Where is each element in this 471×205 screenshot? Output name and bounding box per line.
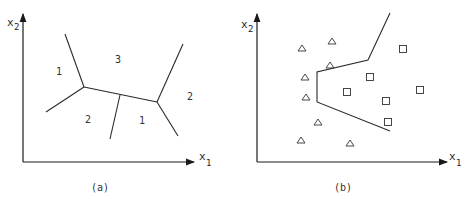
x-axis-label: x — [449, 150, 456, 163]
square-icon — [344, 89, 351, 96]
triangle-icon — [298, 45, 306, 51]
region-label: 2 — [187, 91, 193, 102]
x-axis-subscript: 1 — [456, 158, 461, 168]
triangle-points — [297, 38, 354, 146]
caption-b: (b) — [334, 182, 352, 193]
triangle-icon — [346, 140, 354, 146]
square-icon — [383, 98, 390, 105]
caption-a: (a) — [91, 182, 109, 193]
x-axis-subscript: 1 — [206, 158, 211, 168]
square-icon — [385, 119, 392, 126]
square-icon — [400, 46, 407, 53]
decision-boundary — [317, 13, 390, 131]
square-icon — [367, 74, 374, 81]
square-points — [344, 46, 424, 126]
triangle-icon — [314, 119, 322, 125]
region-label: 1 — [139, 115, 145, 126]
panel-b: x 2 x 1 (b) — [241, 13, 461, 193]
figure: x 2 x 1 1 3 2 2 1 (a) x 2 x 1 — [0, 0, 471, 205]
y-axis-label: x — [7, 16, 14, 29]
decision-boundaries — [46, 34, 183, 139]
region-label: 1 — [56, 66, 62, 77]
panel-a: x 2 x 1 1 3 2 2 1 (a) — [7, 14, 211, 193]
x-axis-label: x — [199, 150, 206, 163]
y-axis-subscript: 2 — [248, 24, 253, 34]
square-icon — [417, 87, 424, 94]
y-axis-label: x — [241, 18, 248, 31]
region-label: 3 — [115, 54, 121, 65]
triangle-icon — [328, 38, 336, 44]
triangle-icon — [301, 74, 309, 80]
y-axis-subscript: 2 — [14, 22, 19, 32]
region-label: 2 — [85, 114, 91, 125]
triangle-icon — [302, 94, 310, 100]
triangle-icon — [326, 62, 334, 68]
triangle-icon — [297, 137, 305, 143]
